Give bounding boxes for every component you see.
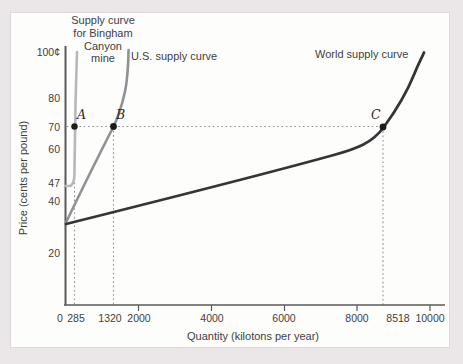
x-tick-10000: 10000	[408, 311, 452, 325]
supply-curves-figure: 100¢ 80 70 60 47 40 20 0 285 1320 2000 4…	[0, 0, 463, 364]
axes	[64, 46, 445, 311]
us-curve-label: U.S. supply curve	[131, 50, 217, 63]
x-tick-8000: 8000	[335, 311, 379, 325]
x-tick-6000: 6000	[262, 311, 306, 325]
y-axis-title-text: Price (cents per pound)	[17, 121, 29, 235]
point-c-label: C	[371, 108, 381, 122]
y-tick-100: 100¢	[16, 45, 60, 59]
y-tick-80: 80	[16, 91, 60, 105]
bingham-canyon-supply-curve	[66, 52, 78, 186]
point-b-label: B	[116, 108, 125, 122]
x-tick-2000: 2000	[117, 311, 161, 325]
supply-curves	[66, 50, 425, 224]
point-a-label: A	[77, 108, 86, 122]
world-curve-label: World supply curve	[315, 48, 408, 61]
y-tick-20: 20	[16, 246, 60, 260]
bingham-curve-label-line2: for Bingham	[63, 27, 143, 40]
point-b-dot	[110, 123, 117, 130]
x-tick-4000: 4000	[190, 311, 234, 325]
bingham-curve-label-line1: Supply curve	[63, 14, 143, 27]
world-supply-curve	[66, 53, 424, 225]
point-c-dot	[380, 124, 387, 131]
point-a-dot	[71, 123, 77, 129]
x-axis-title: Quantity (kilotons per year)	[133, 330, 373, 342]
